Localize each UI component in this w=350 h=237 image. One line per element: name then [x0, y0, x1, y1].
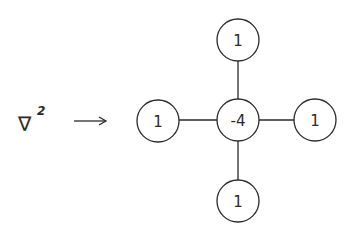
node-bottom: 1 — [217, 180, 259, 222]
right-arrow-icon — [74, 117, 106, 125]
node-right-label: 1 — [310, 112, 320, 130]
exponent: 2 — [37, 104, 45, 118]
node-center: -4 — [217, 99, 259, 141]
nabla-symbol: ∇ — [17, 112, 32, 136]
laplacian-operator: ∇ 2 — [17, 104, 45, 136]
node-top-label: 1 — [233, 32, 243, 50]
node-right: 1 — [294, 99, 336, 141]
node-bottom-label: 1 — [233, 193, 243, 211]
node-top: 1 — [217, 19, 259, 61]
node-left-label: 1 — [153, 113, 163, 131]
node-center-label: -4 — [231, 112, 246, 130]
laplacian-stencil-diagram: ∇ 2 1 1 -4 1 1 — [0, 0, 350, 237]
node-left: 1 — [137, 100, 179, 142]
